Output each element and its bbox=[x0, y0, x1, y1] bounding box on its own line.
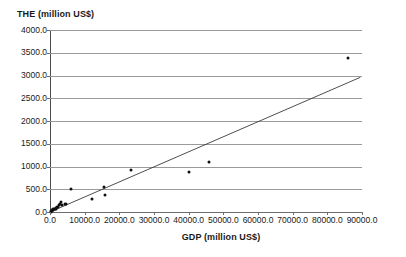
data-point bbox=[102, 186, 105, 189]
data-point bbox=[347, 56, 350, 59]
y-axis-tick-label: 2500.0 bbox=[21, 94, 47, 103]
x-axis-tick-mark bbox=[189, 212, 190, 215]
data-point bbox=[59, 200, 62, 203]
x-axis-title: GDP (million US$) bbox=[0, 232, 406, 242]
x-axis-tick-label: 50000.0 bbox=[208, 216, 239, 225]
gridline bbox=[50, 212, 362, 213]
x-axis-tick-mark bbox=[327, 212, 328, 215]
y-axis-tick-label: 4000.0 bbox=[21, 26, 47, 35]
data-point bbox=[69, 187, 72, 190]
x-axis-tick-mark bbox=[119, 212, 120, 215]
x-axis-tick-label: 60000.0 bbox=[243, 216, 274, 225]
x-axis-tick-label: 70000.0 bbox=[277, 216, 308, 225]
y-axis-tick-label: 3500.0 bbox=[21, 48, 47, 57]
y-axis-tick-label: 1500.0 bbox=[21, 139, 47, 148]
x-axis-tick-label: 10000.0 bbox=[69, 216, 100, 225]
data-point bbox=[64, 202, 67, 205]
trendline bbox=[50, 30, 362, 212]
x-axis-tick-mark bbox=[293, 212, 294, 215]
data-point bbox=[130, 168, 133, 171]
x-axis-tick-label: 0.0 bbox=[44, 216, 56, 225]
data-point bbox=[187, 170, 190, 173]
x-axis-tick-mark bbox=[258, 212, 259, 215]
data-point bbox=[104, 194, 107, 197]
x-axis-tick-label: 40000.0 bbox=[173, 216, 204, 225]
x-axis-tick-mark bbox=[85, 212, 86, 215]
y-axis-tick-label: 2000.0 bbox=[21, 117, 47, 126]
y-axis-tick-label: 500.0 bbox=[26, 185, 47, 194]
x-axis-tick-label: 30000.0 bbox=[139, 216, 170, 225]
y-axis-title: THE (million US$) bbox=[17, 9, 94, 19]
x-axis-tick-mark bbox=[50, 212, 51, 215]
plot-area bbox=[50, 30, 362, 212]
y-axis-tick-label: 3000.0 bbox=[21, 71, 47, 80]
data-point bbox=[208, 160, 211, 163]
x-axis-tick-label: 90000.0 bbox=[347, 216, 378, 225]
x-axis-tick-label: 20000.0 bbox=[104, 216, 135, 225]
x-axis-tick-mark bbox=[154, 212, 155, 215]
x-axis-tick-mark bbox=[362, 212, 363, 215]
scatter-chart: THE (million US$) 0.0500.01000.01500.020… bbox=[0, 0, 406, 257]
data-point bbox=[90, 197, 93, 200]
x-axis-tick-label: 80000.0 bbox=[312, 216, 343, 225]
y-axis-tick-label: 1000.0 bbox=[21, 162, 47, 171]
x-axis-tick-mark bbox=[223, 212, 224, 215]
